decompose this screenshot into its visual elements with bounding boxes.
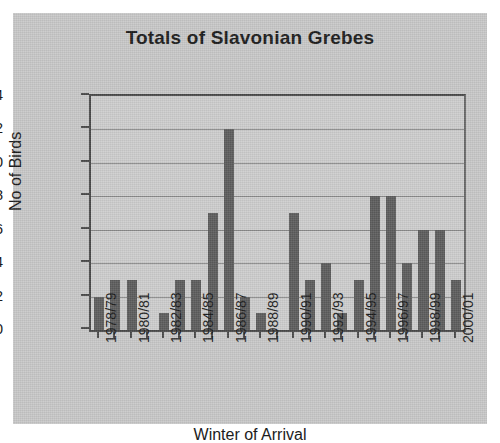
- chart-page: Totals of Slavonian Grebes No of Birds 0…: [0, 0, 500, 443]
- x-axis-tick-mark: [389, 330, 391, 338]
- y-axis-tick-label: 10: [0, 152, 3, 169]
- x-axis-tick-label: 1996/97: [395, 292, 411, 343]
- x-axis-tick-mark: [292, 330, 294, 338]
- x-axis-tick-label: 1998/99: [427, 292, 443, 343]
- y-axis-tick-mark: [81, 193, 89, 195]
- y-axis-tick-mark: [81, 327, 89, 329]
- x-axis-tick-mark: [421, 330, 423, 338]
- y-axis-tick-mark: [81, 93, 89, 95]
- x-axis-tick-label: 1978/79: [103, 292, 119, 343]
- y-axis-tick-label: 12: [0, 119, 3, 136]
- chart-card: Totals of Slavonian Grebes No of Birds 0…: [13, 13, 487, 424]
- y-axis-tick-mark: [81, 160, 89, 162]
- x-axis-tick-label: 1992/93: [330, 292, 346, 343]
- x-axis-tick-label: 1988/89: [265, 292, 281, 343]
- x-axis-tick-label: 1986/87: [233, 292, 249, 343]
- x-axis-tick-mark: [97, 330, 99, 338]
- y-axis-tick-label: 8: [0, 186, 3, 203]
- x-axis-tick-mark: [194, 330, 196, 338]
- x-axis-tick-label: 1980/81: [136, 292, 152, 343]
- x-axis-tick-mark: [357, 330, 359, 338]
- chart-title: Totals of Slavonian Grebes: [13, 27, 487, 49]
- y-axis-tick-mark: [81, 260, 89, 262]
- x-axis-tick-mark: [162, 330, 164, 338]
- x-axis-tick-label: 2000/01: [460, 292, 476, 343]
- y-axis-tick-label: 2: [0, 286, 3, 303]
- x-axis-tick-mark: [454, 330, 456, 338]
- y-axis-tick-mark: [81, 126, 89, 128]
- y-axis-tick-label: 4: [0, 253, 3, 270]
- x-axis-tick-mark: [259, 330, 261, 338]
- y-axis-tick-label: 6: [0, 219, 3, 236]
- y-axis-title: No of Birds: [7, 132, 25, 211]
- x-axis-title: Winter of Arrival: [13, 426, 487, 443]
- y-axis-tick-label: 0: [0, 320, 3, 337]
- x-axis-tick-mark: [130, 330, 132, 338]
- y-axis-tick-label: 14: [0, 86, 3, 103]
- y-axis-tick-mark: [81, 227, 89, 229]
- x-axis-tick-label: 1994/95: [363, 292, 379, 343]
- y-axis-tick-mark: [81, 294, 89, 296]
- x-axis-tick-label: 1982/83: [168, 292, 184, 343]
- x-axis-tick-mark: [324, 330, 326, 338]
- x-axis-tick-mark: [227, 330, 229, 338]
- x-axis-tick-label: 1984/85: [200, 292, 216, 343]
- x-axis-tick-label: 1990/91: [298, 292, 314, 343]
